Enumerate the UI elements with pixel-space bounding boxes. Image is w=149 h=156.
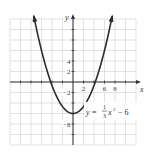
y-axis-label: y [64,13,69,22]
x-tick-label: 8 [113,85,117,93]
equation-constant: − 6 [118,108,129,117]
x-tick-label: 6 [103,85,107,93]
curve-arrow-icon [109,14,114,22]
axes [10,14,141,145]
equation-frac-den: 3 [103,113,106,119]
parabola-graph: 26842−2−8 x y y = 1 3 x 2 − 6 [0,0,149,156]
x-axis-arrow-icon [136,80,141,84]
curve-arrow-icon [33,14,38,22]
y-tick-label: −8 [63,121,71,129]
equation-var: x [107,108,112,117]
y-tick-label: −2 [63,89,71,97]
y-axis-arrow-icon [71,14,75,19]
y-tick-label: 4 [67,58,71,66]
x-tick-label: 2 [82,85,86,93]
x-axis-label: x [139,85,144,94]
equation-frac-num: 1 [103,104,106,110]
y-tick-label: 2 [67,68,71,76]
equation-prefix: y = [85,108,97,117]
equation-label: y = 1 3 x 2 − 6 [84,102,142,120]
